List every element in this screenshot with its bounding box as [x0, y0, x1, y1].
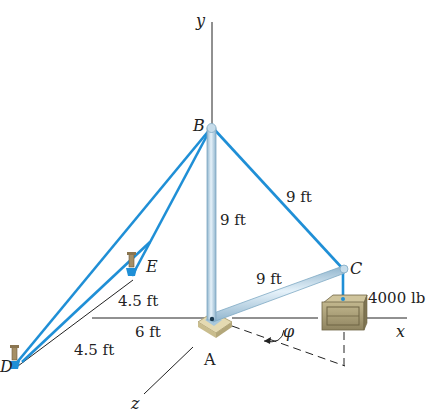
x-axis-label: x — [396, 322, 405, 341]
dimension-ab: 9 ft — [220, 211, 246, 229]
dimension-bc: 9 ft — [286, 188, 312, 206]
point-e-label: E — [145, 257, 158, 276]
dimension-d-offset: 4.5 ft — [74, 341, 114, 359]
diagram-canvas: y x z B C A D E 9 ft 9 ft 9 ft 4.5 ft 6 … — [0, 0, 447, 418]
crate-load — [322, 295, 367, 330]
angle-arrowhead — [264, 337, 271, 344]
dimension-e-offset: 4.5 ft — [118, 292, 158, 310]
point-a-label: A — [203, 350, 216, 369]
cable-bc — [213, 128, 343, 269]
load-label: 4000 lb — [368, 289, 425, 307]
point-d-label: D — [0, 357, 13, 376]
point-b-label: B — [192, 116, 205, 135]
boom-ab — [207, 124, 216, 322]
cable-be — [132, 128, 211, 276]
dimension-x-offset: 6 ft — [135, 323, 161, 341]
point-c-label: C — [350, 259, 362, 278]
z-axis-label: z — [130, 394, 140, 413]
y-axis-label: y — [195, 11, 206, 30]
cable-bd — [14, 128, 211, 366]
z-axis — [144, 347, 193, 394]
angle-phi-label: φ — [283, 322, 295, 341]
dimension-ac: 9 ft — [256, 270, 282, 288]
